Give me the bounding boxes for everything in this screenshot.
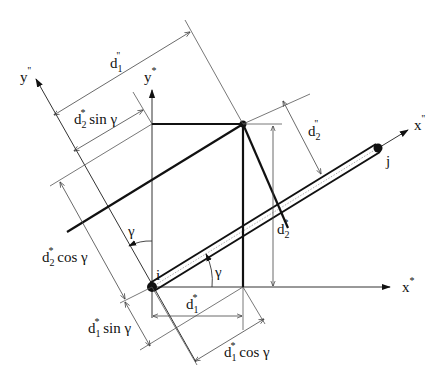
- label-d2-star: d2*: [277, 217, 290, 240]
- node-j-dot: [374, 144, 383, 153]
- label-node-j: j: [385, 153, 390, 169]
- svg-text:y'': y'': [20, 65, 31, 85]
- label-d1-cos-gamma: d1* cos γ: [224, 340, 270, 363]
- beam-element: [147, 144, 383, 293]
- label-d1-local: d1'': [110, 50, 123, 74]
- svg-text:y*: y*: [144, 65, 157, 85]
- x-local-axis: [380, 130, 408, 147]
- label-y-star: y*: [144, 65, 157, 85]
- label-d2-local: d2'': [308, 118, 321, 142]
- extension-lines: [50, 20, 310, 365]
- label-gamma-beam: γ: [214, 264, 222, 280]
- label-y-local: y'': [20, 65, 31, 85]
- label-x-local: x'': [414, 113, 425, 133]
- label-x-star: x*: [402, 275, 415, 295]
- label-d1-star: d1*: [186, 292, 199, 315]
- svg-text:x'': x'': [414, 113, 425, 133]
- beam-rotation-diagram: y'' y* x'' x* i j γ γ d1'' d2* sin γ d2'…: [0, 0, 444, 389]
- svg-text:x*: x*: [402, 275, 415, 295]
- label-d1-sin-gamma: d1* sin γ: [88, 316, 132, 339]
- label-d2-cos-gamma: d2* cos γ: [42, 245, 88, 268]
- point-projection-lines: [67, 121, 288, 288]
- angle-gamma-axis-arc: [129, 241, 152, 246]
- label-node-i: i: [156, 267, 160, 283]
- label-gamma-axis: γ: [127, 223, 135, 239]
- label-d2-sin-gamma: d2* sin γ: [74, 107, 118, 130]
